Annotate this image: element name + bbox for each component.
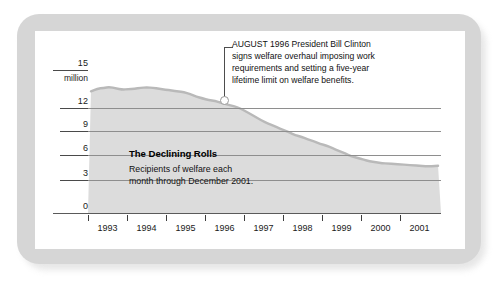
x-axis-label-2000: 2000 [361, 223, 400, 233]
chart-subtitle-line1: Recipients of welfare each [129, 164, 232, 174]
x-axis-label-1997: 1997 [244, 223, 283, 233]
annotation-leader-vertical [224, 47, 225, 100]
x-tick-1998-5 [322, 215, 323, 221]
annotation-line-4: lifetime limit on welfare benefits. [232, 75, 354, 85]
x-tick-1994-5 [166, 215, 167, 221]
y-axis-label-0: 0 [48, 201, 88, 211]
y-tick-rule-9 [60, 131, 88, 132]
y-axis-label-9: 9 [48, 119, 88, 129]
x-axis-label-1996: 1996 [205, 223, 244, 233]
annotation-point-marker [220, 96, 229, 105]
chart-subtitle: Recipients of welfare each month through… [129, 163, 309, 188]
x-tick-1992-5 [88, 215, 89, 221]
x-axis-label-1993: 1993 [88, 223, 127, 233]
y-axis-unit-million: million [40, 73, 88, 83]
y-axis-label-3: 3 [48, 168, 88, 178]
x-tick-1995-5 [205, 215, 206, 221]
chart-subtitle-line2: month through December 2001. [129, 176, 253, 186]
y-tick-rule-15 [53, 70, 88, 71]
x-tick-1993-5 [127, 215, 128, 221]
x-axis-label-1998: 1998 [283, 223, 322, 233]
gridline-12 [88, 108, 441, 109]
x-axis-label-1999: 1999 [322, 223, 361, 233]
gridline-9 [88, 131, 441, 132]
x-axis-line [53, 213, 441, 214]
y-axis-label-15: 15 [48, 58, 88, 68]
annotation-text: AUGUST 1996 President Bill Clinton signs… [232, 38, 412, 86]
y-axis-label-6: 6 [48, 143, 88, 153]
x-tick-1997-5 [283, 215, 284, 221]
x-axis-label-1995: 1995 [166, 223, 205, 233]
y-tick-rule-12 [60, 108, 88, 109]
x-tick-2000-5 [400, 215, 401, 221]
y-axis-label-12: 12 [48, 96, 88, 106]
chart-figure: 15 million 12 9 6 3 0 1993 1994 1995 199… [0, 0, 503, 285]
plot-area: 15 million 12 9 6 3 0 1993 1994 1995 199… [0, 0, 503, 285]
chart-title: The Declining Rolls [129, 148, 217, 159]
x-axis-label-1994: 1994 [127, 223, 166, 233]
annotation-line-1: AUGUST 1996 President Bill Clinton [232, 39, 371, 49]
y-tick-rule-3 [60, 180, 88, 181]
y-tick-rule-6 [60, 155, 88, 156]
annotation-line-3: requirements and setting a five-year [232, 63, 369, 73]
annotation-line-2: signs welfare overhaul imposing work [232, 51, 375, 61]
x-tick-1996-5 [244, 215, 245, 221]
x-tick-1999-5 [361, 215, 362, 221]
x-axis-label-2001: 2001 [400, 223, 439, 233]
